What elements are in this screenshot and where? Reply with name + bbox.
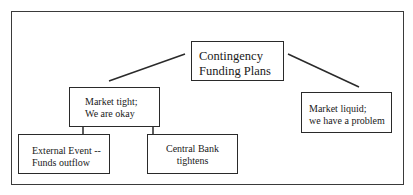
node-label-line: Funding Plans xyxy=(199,64,283,79)
node-label-line: We are okay xyxy=(85,108,159,120)
node-market-tight: Market tight; We are okay xyxy=(69,87,160,127)
node-label-line: Contingency xyxy=(199,49,283,64)
connector-root-to-market-liquid xyxy=(288,54,359,87)
node-market-liquid: Market liquid; we have a problem xyxy=(301,92,392,133)
node-label-line: Funds outflow xyxy=(32,157,109,169)
node-label-line: Market tight; xyxy=(85,96,159,108)
node-contingency-funding-plans: Contingency Funding Plans xyxy=(191,41,284,81)
node-central-bank: Central Bank tightens xyxy=(147,134,238,174)
node-label-line: External Event -- xyxy=(32,145,109,157)
connector-root-to-market-tight xyxy=(109,54,185,81)
node-label-line: tightens xyxy=(148,155,237,167)
node-external-event: External Event -- Funds outflow xyxy=(18,134,110,174)
node-label-line: we have a problem xyxy=(309,115,391,127)
node-label-line: Market liquid; xyxy=(309,103,391,115)
node-label-line: Central Bank xyxy=(148,143,237,155)
